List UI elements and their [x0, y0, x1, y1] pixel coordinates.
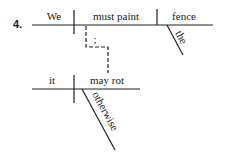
object-modifier: the: [173, 28, 190, 46]
second-subject: it: [49, 74, 55, 86]
sentence-diagram: 4. We must paint fence the ; it may rot …: [0, 0, 227, 160]
connector-semicolon: ;: [93, 33, 96, 45]
exercise-number: 4.: [13, 18, 22, 30]
main-subject: We: [47, 10, 62, 22]
verb-modifier: otherwise: [90, 89, 121, 132]
main-verb: must paint: [93, 10, 139, 22]
main-object: fence: [172, 10, 196, 22]
second-verb: may rot: [90, 74, 124, 86]
clause-connector-line: [86, 26, 108, 73]
